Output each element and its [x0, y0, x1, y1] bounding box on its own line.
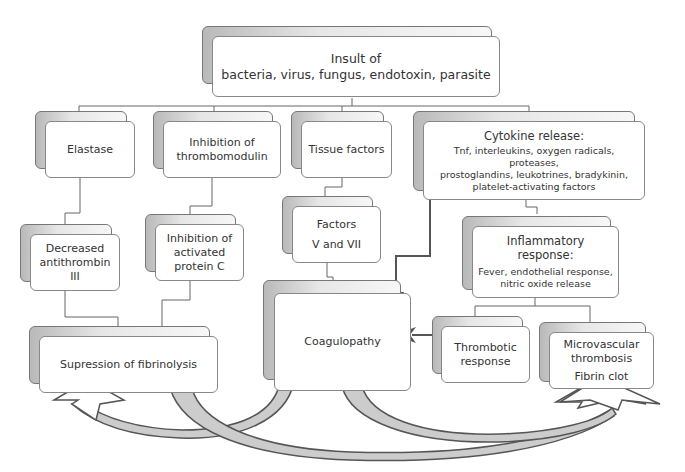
- thrombomodulin-line2: thrombomodulin: [176, 150, 267, 164]
- connector-antithrombin: [65, 290, 118, 328]
- antithrombin-line2: antithrombin: [39, 256, 110, 270]
- elastase-label: Elastase: [67, 143, 113, 157]
- connector-tissue: [325, 178, 342, 197]
- microvascular-line2: thrombosis: [571, 352, 632, 366]
- thrombotic-line2: response: [461, 355, 511, 369]
- cytokine-title: Cytokine release:: [484, 129, 584, 143]
- inflammatory-line2: nitric oxide release: [500, 278, 591, 290]
- coagulopathy-label: Coagulopathy: [304, 335, 380, 349]
- connector-elastase: [65, 178, 80, 225]
- connector-thrombomodulin: [190, 178, 212, 214]
- cytokine-line2: prostoglandins, leukotrines, bradykinin,: [440, 169, 628, 181]
- antithrombin-line3: III: [70, 270, 80, 284]
- insult-line1: Insult of: [331, 51, 381, 67]
- protein-c-line3: protein C: [174, 260, 224, 274]
- protein-c-line1: Inhibition of: [167, 232, 232, 246]
- microvascular-line3: Fibrin clot: [575, 370, 629, 384]
- antithrombin-line1: Decreased: [46, 242, 105, 256]
- microvascular-line1: Microvascular: [564, 338, 640, 352]
- connector-factors: [327, 263, 333, 281]
- supression-label: Supression of fibrinolysis: [60, 358, 197, 372]
- thrombotic-line1: Thrombotic: [454, 341, 517, 355]
- inflammatory-line1: Fever, endothelial response,: [478, 266, 612, 278]
- connector-proteinc: [162, 280, 190, 327]
- connector-cytokine: [526, 199, 537, 214]
- cytokine-line1: Tnf, interleukins, oxygen radicals, prot…: [428, 145, 640, 169]
- protein-c-line2: activated: [174, 246, 225, 260]
- factors-line1: Factors: [317, 215, 356, 235]
- factors-line2: V and VII: [312, 235, 361, 255]
- insult-line2: bacteria, virus, fungus, endotoxin, para…: [221, 67, 490, 83]
- inflammatory-title: Inflammatory response:: [477, 234, 614, 262]
- tissue-factors-label: Tissue factors: [308, 143, 384, 157]
- thrombomodulin-line1: Inhibition of: [189, 136, 254, 150]
- cytokine-line3: platelet-activating factors: [473, 181, 596, 193]
